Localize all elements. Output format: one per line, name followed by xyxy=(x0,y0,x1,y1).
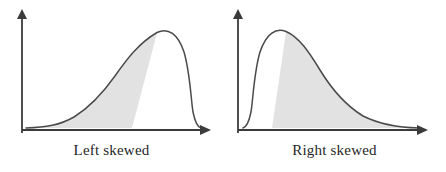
right-skewed-x-axis-arrow-icon xyxy=(417,125,428,135)
right-skewed-plot xyxy=(223,0,446,140)
left-skewed-plot xyxy=(0,0,223,140)
left-skewed-y-axis-arrow-icon xyxy=(17,9,27,19)
left-skewed-x-axis-arrow-icon xyxy=(200,125,211,135)
right-skewed-y-axis-arrow-icon xyxy=(233,9,243,19)
skewness-figure: Left skewed Right skewed xyxy=(0,0,446,172)
panel-left-skewed: Left skewed xyxy=(0,0,223,172)
right-skewed-shaded-region xyxy=(272,32,413,128)
left-skewed-caption: Left skewed xyxy=(0,141,223,160)
right-skewed-caption: Right skewed xyxy=(223,141,446,160)
panel-right-skewed: Right skewed xyxy=(223,0,446,172)
